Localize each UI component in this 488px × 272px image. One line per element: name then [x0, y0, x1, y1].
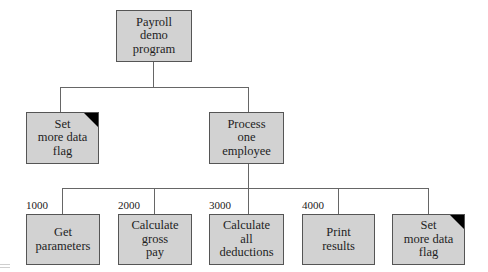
connector-level2-bar — [60, 87, 249, 88]
node-set-more-data-flag: Set more data flag — [26, 112, 99, 164]
connector-root-down — [153, 61, 154, 88]
module-number-2000: 2000 — [118, 199, 140, 211]
node-calculate-gross-pay: Calculate gross pay — [118, 214, 192, 265]
connector-to-calc-deductions — [248, 188, 249, 214]
page-edge-mark — [0, 264, 10, 265]
connector-level3-bar — [62, 188, 429, 189]
node-set-more-data-flag-2: Set more data flag — [392, 214, 465, 265]
module-number-1000: 1000 — [26, 199, 48, 211]
page-edge-mark — [0, 267, 10, 268]
connector-to-get-parameters — [62, 188, 63, 214]
connector-process-down — [248, 163, 249, 189]
node-calculate-all-deductions: Calculate all deductions — [209, 214, 284, 265]
connector-to-set-flag-2 — [428, 188, 429, 214]
connector-to-process — [248, 87, 249, 112]
connector-to-calc-gross — [154, 188, 155, 214]
node-payroll-demo-program: Payroll demo program — [116, 10, 192, 62]
node-print-results: Print results — [302, 214, 375, 265]
connector-to-set-flag — [60, 87, 61, 112]
module-number-3000: 3000 — [209, 199, 231, 211]
module-number-4000: 4000 — [302, 199, 324, 211]
node-get-parameters: Get parameters — [26, 214, 100, 265]
connector-to-print-results — [338, 188, 339, 214]
node-process-one-employee: Process one employee — [209, 112, 284, 164]
